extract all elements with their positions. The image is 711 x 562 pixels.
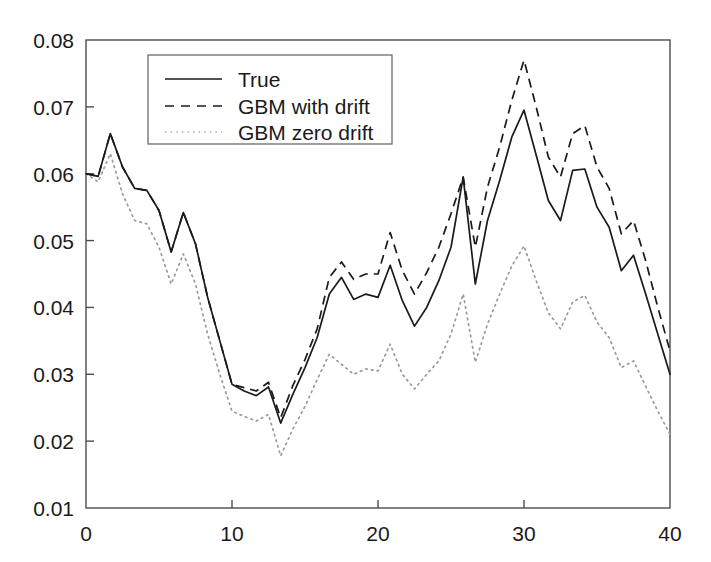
y-axis-tick-labels: 0.010.020.030.040.050.060.070.08 <box>33 29 74 520</box>
y-tick-label-0.03: 0.03 <box>33 363 74 386</box>
legend-label-true: True <box>238 68 280 91</box>
line-chart: 010203040 0.010.020.030.040.050.060.070.… <box>0 0 711 562</box>
x-axis-tick-labels: 010203040 <box>80 522 682 545</box>
chart-figure: 010203040 0.010.020.030.040.050.060.070.… <box>0 0 711 562</box>
y-tick-label-0.01: 0.01 <box>33 497 74 520</box>
y-tick-label-0.06: 0.06 <box>33 163 74 186</box>
x-tick-label-20: 20 <box>366 522 389 545</box>
legend-label-gbm-zero-drift: GBM zero drift <box>238 121 374 144</box>
legend-label-gbm-with-drift: GBM with drift <box>238 95 370 118</box>
y-tick-label-0.05: 0.05 <box>33 230 74 253</box>
x-tick-label-40: 40 <box>658 522 681 545</box>
chart-legend: True GBM with drift GBM zero drift <box>148 55 392 144</box>
y-tick-label-0.07: 0.07 <box>33 96 74 119</box>
x-tick-label-0: 0 <box>80 522 92 545</box>
y-tick-label-0.04: 0.04 <box>33 296 74 319</box>
y-tick-label-0.08: 0.08 <box>33 29 74 52</box>
y-tick-label-0.02: 0.02 <box>33 430 74 453</box>
x-tick-label-30: 30 <box>512 522 535 545</box>
x-tick-label-10: 10 <box>220 522 243 545</box>
